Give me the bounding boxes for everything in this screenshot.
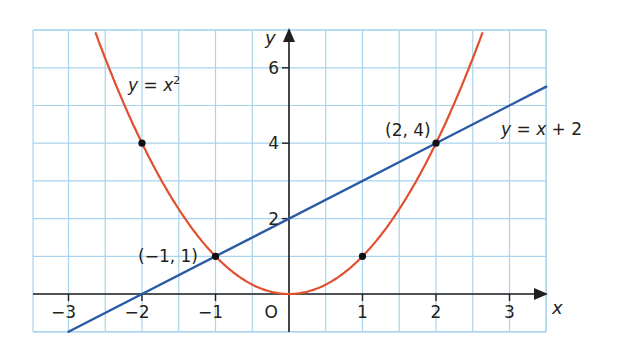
- parabola-label: y = x2: [127, 74, 180, 95]
- point-label-2-4: (2, 4): [385, 120, 431, 140]
- x-tick-label: −3: [51, 302, 76, 322]
- x-tick-label: 1: [357, 302, 368, 322]
- x-axis-label: x: [551, 297, 563, 318]
- y-axis-label: y: [264, 27, 276, 48]
- data-point: [212, 253, 219, 260]
- line-label: y = x + 2: [500, 119, 582, 139]
- x-tick-label: −2: [124, 302, 149, 322]
- y-tick-label: 6: [268, 58, 279, 78]
- point-label-neg1-1: (−1, 1): [138, 246, 198, 266]
- graph-chart: −3−2−1123246Oxyy = x2y = x + 2(2, 4)(−1,…: [0, 0, 619, 350]
- x-tick-label: −1: [198, 302, 223, 322]
- x-tick-label: 2: [431, 302, 442, 322]
- y-tick-label: 4: [268, 133, 279, 153]
- plot-labels: −3−2−1123246Oxyy = x2y = x + 2(2, 4)(−1,…: [51, 27, 582, 322]
- origin-label: O: [265, 302, 278, 322]
- linear-line: [69, 87, 547, 332]
- data-point: [432, 140, 439, 147]
- y-tick-label: 2: [268, 209, 279, 229]
- x-tick-label: 3: [504, 302, 515, 322]
- data-point: [359, 253, 366, 260]
- data-point: [138, 140, 145, 147]
